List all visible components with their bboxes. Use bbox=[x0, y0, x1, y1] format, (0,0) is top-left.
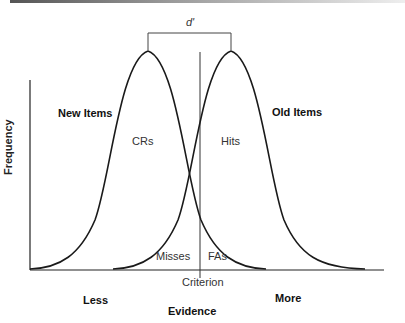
criterion-label: Criterion bbox=[182, 276, 224, 288]
new-items-curve bbox=[30, 51, 266, 269]
fas-label: FAs bbox=[208, 250, 227, 262]
dprime-bracket bbox=[148, 33, 231, 50]
more-label: More bbox=[275, 292, 301, 304]
sdt-plot bbox=[0, 0, 405, 323]
less-label: Less bbox=[83, 294, 108, 306]
dprime-label: d' bbox=[186, 16, 194, 28]
old-items-curve bbox=[113, 51, 365, 269]
misses-label: Misses bbox=[156, 250, 190, 262]
new-items-label: New Items bbox=[58, 107, 112, 119]
frequency-label: Frequency bbox=[2, 119, 14, 175]
old-items-label: Old Items bbox=[272, 106, 322, 118]
evidence-label: Evidence bbox=[168, 305, 216, 317]
crs-label: CRs bbox=[132, 135, 153, 147]
hits-label: Hits bbox=[221, 135, 240, 147]
